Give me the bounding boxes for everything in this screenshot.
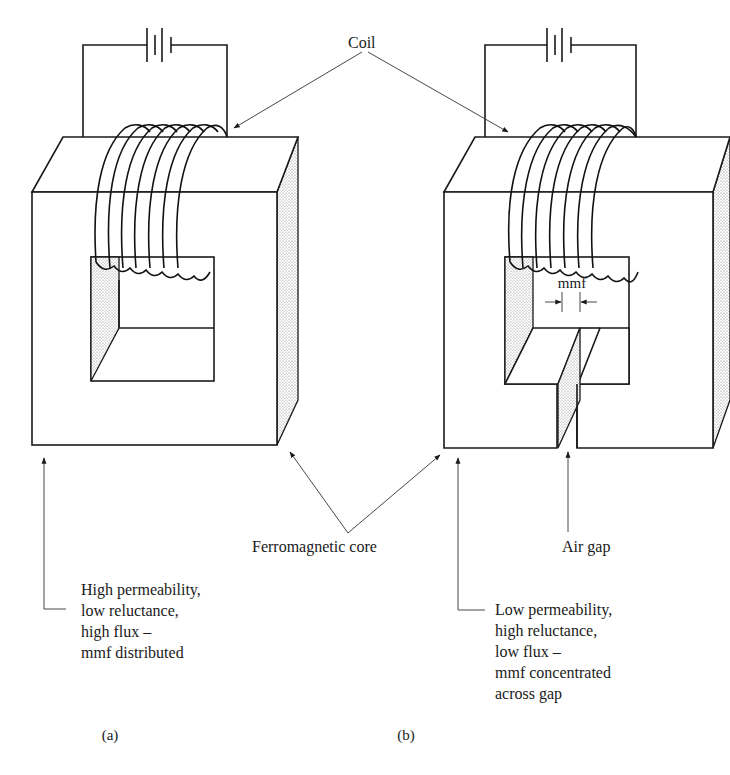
air-gap-label: Air gap xyxy=(562,538,610,556)
panel-a-description-callout: High permeability, low reluctance, high … xyxy=(44,458,205,661)
magnetic-core-diagram: mmf Coil Ferromagnetic core Air ga xyxy=(0,0,730,775)
panel-b-core-with-gap: mmf xyxy=(444,28,730,448)
panel-b-description: Low permeability, high reluctance, low f… xyxy=(495,601,616,703)
coil-callout: Coil xyxy=(234,34,508,132)
panel-a-description: High permeability, low reluctance, high … xyxy=(81,581,205,661)
panel-a-caption: (a) xyxy=(102,727,119,744)
air-gap-callout: Air gap xyxy=(562,452,610,556)
ferromagnetic-core-callout: Ferromagnetic core xyxy=(252,452,440,556)
battery-icon xyxy=(147,28,171,62)
coil-label: Coil xyxy=(348,34,376,51)
panel-b-caption: (b) xyxy=(397,727,415,744)
ferromagnetic-core-label: Ferromagnetic core xyxy=(252,538,377,556)
panel-a-core-without-gap xyxy=(32,28,298,445)
panel-b-description-callout: Low permeability, high reluctance, low f… xyxy=(458,458,616,703)
battery-icon xyxy=(547,28,571,62)
